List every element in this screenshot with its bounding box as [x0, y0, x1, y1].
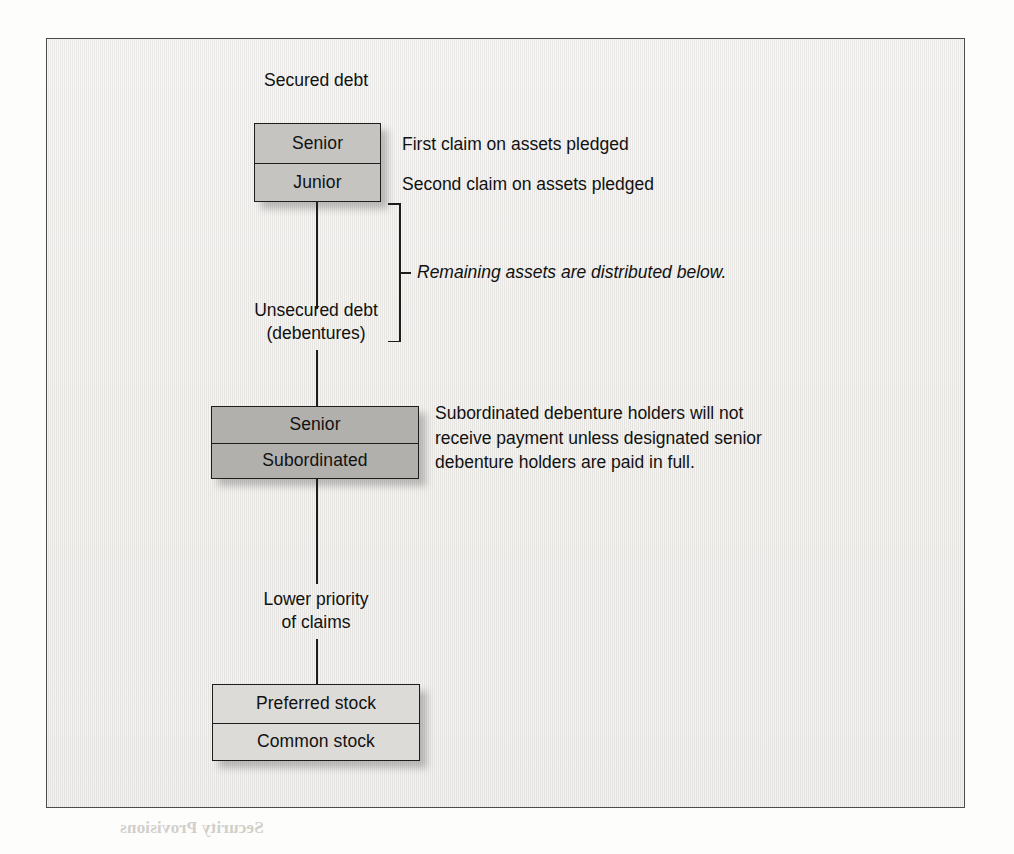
equity-box: Preferred stock Common stock [212, 684, 420, 761]
unsecured-debt-label: Unsecured debt (debentures) [227, 299, 405, 345]
connector-secured-to-unsecured [316, 202, 318, 309]
unsecured-senior-cell: Senior [212, 407, 418, 443]
secured-junior-cell: Junior [255, 163, 380, 202]
connector-unsecured-to-priority [316, 479, 318, 584]
figure-panel: Secured debt Senior Junior First claim o… [46, 38, 965, 808]
common-stock-cell: Common stock [213, 723, 419, 761]
secured-junior-label: Junior [293, 172, 341, 193]
bleed-text-line: Security Provisions [120, 818, 264, 838]
secured-senior-cell: Senior [255, 124, 380, 163]
unsecured-subordinated-label: Subordinated [262, 450, 367, 471]
bracket-top-arm [388, 203, 400, 205]
common-stock-label: Common stock [257, 731, 375, 752]
unsecured-subordinated-cell: Subordinated [212, 443, 418, 479]
secured-debt-label: Secured debt [264, 69, 368, 92]
second-claim-annotation: Second claim on assets pledged [402, 173, 654, 196]
figure-contents: Secured debt Senior Junior First claim o… [47, 39, 965, 808]
secured-debt-box: Senior Junior [254, 123, 381, 202]
secured-senior-label: Senior [292, 133, 343, 154]
preferred-stock-cell: Preferred stock [213, 685, 419, 723]
connector-unsecured-to-box [316, 350, 318, 406]
subordination-note: Subordinated debenture holders will not … [435, 401, 855, 475]
preferred-stock-label: Preferred stock [256, 693, 376, 714]
unsecured-debt-box: Senior Subordinated [211, 406, 419, 479]
connector-priority-to-equity [316, 639, 318, 684]
remaining-assets-note: Remaining assets are distributed below. [417, 261, 726, 284]
lower-priority-label: Lower priority of claims [227, 588, 405, 634]
bracket-pointer-tick [399, 272, 411, 274]
scanned-page: Security Provisions the security provisi… [0, 0, 1014, 854]
first-claim-annotation: First claim on assets pledged [402, 133, 629, 156]
unsecured-senior-label: Senior [289, 414, 340, 435]
